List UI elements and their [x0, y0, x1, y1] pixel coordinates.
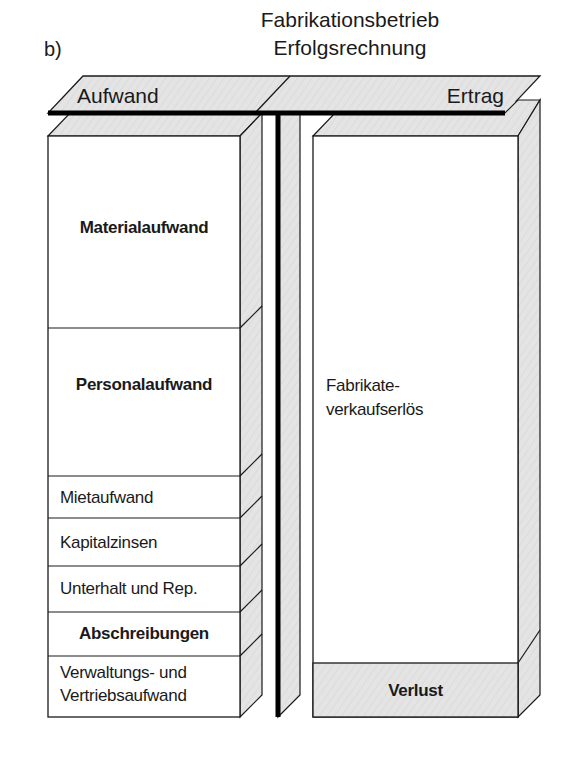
left-block-side-face	[240, 113, 262, 717]
ertrag-item-erloes-line2: verkaufserlös	[326, 400, 423, 419]
aufwand-item-verwaltung-line2: Vertriebsaufwand	[60, 686, 187, 705]
right-block-side-face	[518, 100, 540, 717]
figure-label: b)	[44, 38, 62, 60]
aufwand-item-kapitalzinsen: Kapitalzinsen	[60, 533, 157, 552]
right-block-front	[313, 136, 518, 717]
aufwand-item-material: Materialaufwand	[48, 218, 240, 237]
aufwand-item-abschreibungen: Abschreibungen	[48, 624, 240, 643]
ertrag-item-verlust: Verlust	[313, 681, 518, 700]
figure-title-line1: Fabrikationsbetrieb	[200, 8, 500, 32]
aufwand-item-miete: Mietaufwand	[60, 488, 153, 507]
ertrag-header: Ertrag	[440, 84, 504, 108]
figure-title-line2: Erfolgsrechnung	[200, 36, 500, 60]
spine-side	[278, 113, 300, 717]
aufwand-item-verwaltung-line1: Verwaltungs- und	[60, 663, 187, 682]
aufwand-item-unterhalt: Unterhalt und Rep.	[60, 579, 197, 598]
ertrag-item-erloes-line1: Fabrikate-	[326, 376, 400, 395]
aufwand-item-personal: Personalaufwand	[48, 375, 240, 394]
aufwand-header: Aufwand	[77, 84, 159, 108]
left-block-top-face	[48, 113, 262, 136]
